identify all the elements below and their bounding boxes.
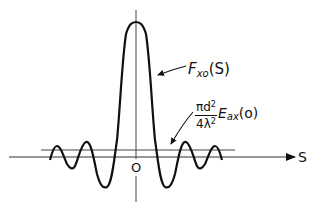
reference-level-label: πd2 4λ2 Eax(o)	[195, 100, 258, 131]
fraction-numerator: πd2	[195, 100, 217, 116]
field-term: Eax(o)	[218, 105, 258, 122]
reference-label-leader	[171, 112, 193, 144]
x-axis-label: S	[298, 150, 307, 164]
diagram-canvas	[0, 0, 310, 207]
curve-label: Fxo(S)	[188, 62, 230, 79]
fraction-denominator: 4λ2	[196, 116, 216, 131]
origin-label: O	[131, 161, 141, 174]
curve-label-leader	[158, 66, 186, 75]
